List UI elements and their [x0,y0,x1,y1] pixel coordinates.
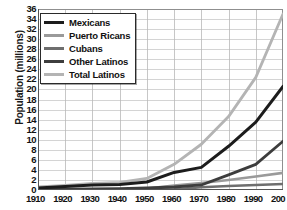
y-tick-label: 14 [18,116,36,124]
legend-swatch-icon [44,73,64,76]
x-tick-label: 1940 [108,193,127,204]
y-tick-label: 4 [18,166,36,174]
y-tick-label: 22 [18,75,36,83]
x-tick-label: 1910 [26,193,45,204]
legend-swatch-icon [44,34,64,37]
y-tick-label: 20 [18,85,36,93]
chart-legend: MexicansPuerto RicansCubansOther Latinos… [40,13,136,84]
y-axis-tick-labels: 024681012141618202224262830323436 [16,0,36,210]
x-tick-label: 1980 [217,193,236,204]
legend-label: Cubans [69,43,103,54]
y-tick-label: 2 [18,176,36,184]
legend-swatch-icon [44,21,64,24]
legend-label: Mexicans [69,17,110,28]
legend-item: Total Latinos [44,68,130,81]
legend-item: Cubans [44,42,130,55]
x-tick-label: 200 [271,193,285,204]
legend-item: Other Latinos [44,55,130,68]
x-tick-label: 1960 [162,193,181,204]
x-tick-label: 1930 [80,193,99,204]
y-tick-label: 30 [18,35,36,43]
y-tick-label: 10 [18,136,36,144]
x-axis-tick-labels: 191019201930194019501960197019801990200 [0,193,287,210]
legend-swatch-icon [44,60,64,63]
y-tick-label: 8 [18,146,36,154]
legend-label: Other Latinos [69,56,128,67]
x-tick-label: 1990 [244,193,263,204]
legend-item: Mexicans [44,16,130,29]
population-line-chart: Population (millions) 024681012141618202… [0,0,287,210]
y-tick-label: 24 [18,65,36,73]
x-tick-label: 1920 [53,193,72,204]
legend-label: Puerto Ricans [69,30,130,41]
x-tick-label: 1970 [189,193,208,204]
y-tick-label: 28 [18,45,36,53]
legend-swatch-icon [44,47,64,50]
y-tick-label: 36 [18,5,36,13]
y-tick-label: 26 [18,55,36,63]
y-tick-label: 12 [18,126,36,134]
y-tick-label: 18 [18,96,36,104]
x-tick-label: 1950 [135,193,154,204]
y-tick-label: 6 [18,156,36,164]
y-tick-label: 32 [18,25,36,33]
legend-label: Total Latinos [69,69,125,80]
y-tick-label: 34 [18,15,36,23]
y-tick-label: 16 [18,106,36,114]
legend-item: Puerto Ricans [44,29,130,42]
